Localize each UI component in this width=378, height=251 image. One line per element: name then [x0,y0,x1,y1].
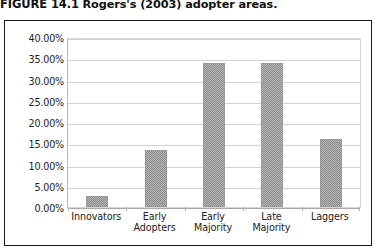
x-axis-label-line: Majority [242,222,300,233]
y-axis-tick-label: 40.00% [6,33,64,44]
gridline-0 [68,208,360,209]
y-axis-tick-label: 15.00% [6,139,64,150]
bar-early-majority[interactable] [203,63,225,208]
x-axis-label-line: Laggers [301,211,359,222]
y-axis-tick-label: 20.00% [6,118,64,129]
x-axis-label-early-adopters: EarlyAdopters [125,211,183,234]
x-axis-label-line: Innovators [67,211,125,222]
x-axis-label-line: Adopters [125,222,183,233]
bar-laggers[interactable] [320,139,342,207]
plot-area [67,38,361,208]
gridline-40 [68,39,360,40]
x-axis-label-line: Late [242,211,300,222]
bar-early-adopters[interactable] [145,150,167,207]
y-axis-tick-label: 0.00% [6,203,64,214]
chart-frame: 40.00%35.00%30.00%25.00%20.00%15.00%10.0… [4,20,372,246]
x-axis: InnovatorsEarlyAdoptersEarlyMajorityLate… [67,211,361,245]
bar-chart: 40.00%35.00%30.00%25.00%20.00%15.00%10.0… [5,21,371,245]
x-axis-label-innovators: Innovators [67,211,125,222]
x-axis-label-line: Majority [184,222,242,233]
y-axis-tick-label: 30.00% [6,75,64,86]
x-axis-label-early-majority: EarlyMajority [184,211,242,234]
gridline-35 [68,60,360,61]
x-axis-label-laggers: Laggers [301,211,359,222]
figure-caption: FIGURE 14.1 Rogers's (2003) adopter area… [0,0,378,15]
figure-caption-label: FIGURE 14.1 [0,0,79,11]
y-axis: 40.00%35.00%30.00%25.00%20.00%15.00%10.0… [5,38,64,208]
y-axis-tick-label: 25.00% [6,96,64,107]
x-axis-label-late-majority: LateMajority [242,211,300,234]
bar-late-majority[interactable] [261,63,283,208]
x-axis-label-line: Early [184,211,242,222]
bar-innovators[interactable] [86,196,108,207]
y-axis-tick-label: 10.00% [6,160,64,171]
y-axis-tick-label: 35.00% [6,54,64,65]
figure-caption-text: Rogers's (2003) adopter areas. [82,0,277,11]
y-axis-tick-label: 5.00% [6,181,64,192]
x-axis-label-line: Early [125,211,183,222]
